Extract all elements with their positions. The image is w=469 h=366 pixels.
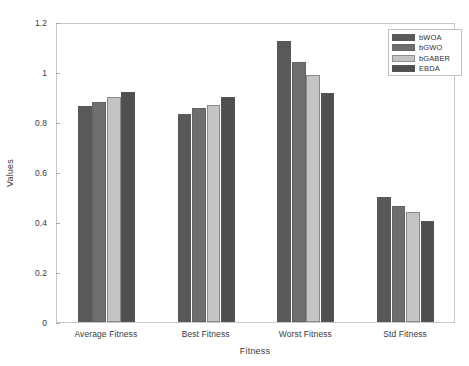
y-tick-label: 0.2 bbox=[35, 268, 47, 278]
legend-swatch bbox=[392, 34, 415, 41]
x-axis-title: Fitness bbox=[240, 346, 270, 356]
bar bbox=[221, 97, 235, 322]
bar bbox=[92, 102, 106, 322]
legend-swatch bbox=[392, 65, 415, 72]
legend-label: bGWO bbox=[419, 43, 442, 52]
bar bbox=[107, 97, 121, 323]
bar bbox=[178, 114, 192, 323]
y-tick-label: 0.6 bbox=[35, 168, 47, 178]
bar bbox=[121, 92, 135, 323]
y-tick-mark bbox=[56, 73, 60, 74]
y-axis-title: Values bbox=[5, 159, 15, 187]
legend-label: bWOA bbox=[419, 33, 442, 42]
x-tick-label: Std Fitness bbox=[383, 329, 427, 339]
legend-item[interactable]: bGWO bbox=[392, 43, 458, 54]
y-tick-label: 1 bbox=[42, 68, 47, 78]
y-tick-mark bbox=[56, 273, 60, 274]
bar bbox=[421, 221, 435, 322]
legend-swatch bbox=[392, 55, 415, 62]
bar bbox=[292, 62, 306, 322]
legend-label: EBDA bbox=[419, 64, 440, 73]
legend-item[interactable]: bWOA bbox=[392, 32, 458, 43]
bar bbox=[406, 212, 420, 322]
legend-label: bGABER bbox=[419, 54, 450, 63]
bar bbox=[377, 197, 391, 322]
bar bbox=[306, 75, 320, 322]
legend-item[interactable]: EBDA bbox=[392, 64, 458, 75]
x-tick-label: Average Fitness bbox=[74, 329, 137, 339]
bar bbox=[207, 105, 221, 322]
y-tick-mark bbox=[56, 173, 60, 174]
bar bbox=[277, 41, 291, 322]
y-tick-label: 0 bbox=[42, 318, 47, 328]
y-tick-mark bbox=[56, 123, 60, 124]
y-tick-mark bbox=[56, 23, 60, 24]
legend-swatch bbox=[392, 44, 415, 51]
bar bbox=[392, 206, 406, 322]
y-tick-mark bbox=[56, 223, 60, 224]
x-tick-label: Worst Fitness bbox=[279, 329, 332, 339]
chart-legend: bWOAbGWObGABEREBDA bbox=[388, 29, 462, 76]
y-tick-label: 1.2 bbox=[35, 18, 47, 28]
y-tick-label: 0.8 bbox=[35, 118, 47, 128]
bar bbox=[78, 106, 92, 322]
y-tick-label: 0.4 bbox=[35, 218, 47, 228]
legend-item[interactable]: bGABER bbox=[392, 53, 458, 64]
bar bbox=[321, 93, 335, 322]
bar bbox=[192, 108, 206, 322]
figure-canvas: 00.20.40.60.811.2 Values Fitness bWOAbGW… bbox=[0, 0, 469, 366]
y-tick-mark bbox=[56, 323, 60, 324]
x-tick-label: Best Fitness bbox=[182, 329, 230, 339]
